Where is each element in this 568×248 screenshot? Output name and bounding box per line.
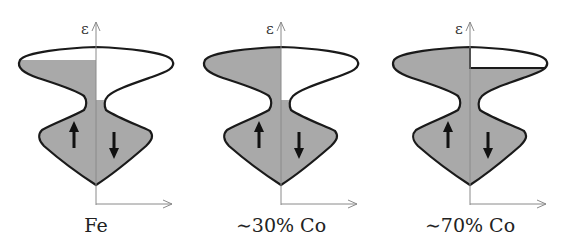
panel-label: ∼70% Co [425, 214, 515, 236]
panel-70-co: ε ∼70% Co [380, 20, 560, 236]
majority-fill [6, 60, 96, 200]
panel-30-co: ε ∼30% Co [191, 20, 371, 236]
dos-diagram: ε Fe ε ∼30% Co [0, 0, 568, 248]
epsilon-label: ε [455, 20, 463, 38]
epsilon-label: ε [266, 20, 274, 38]
panel-label: Fe [84, 214, 107, 236]
panel-fe: ε Fe [6, 20, 186, 236]
minority-fill [470, 68, 560, 200]
epsilon-label: ε [81, 20, 89, 38]
panel-label: ∼30% Co [236, 214, 326, 236]
